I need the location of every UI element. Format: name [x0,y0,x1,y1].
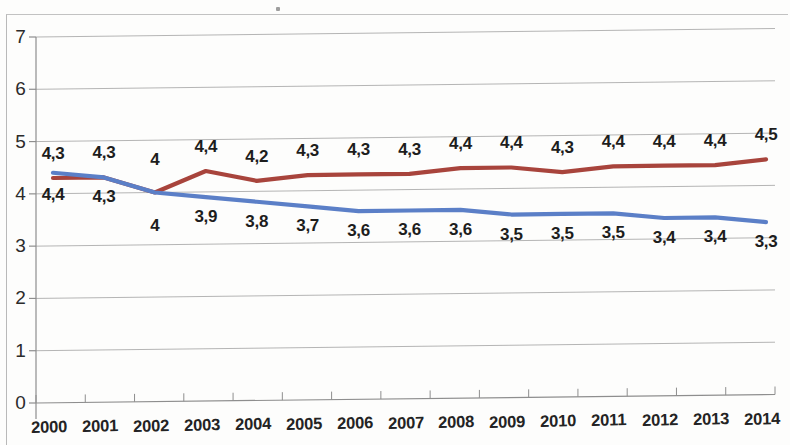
y-axis-label-4: 4 [0,183,26,205]
gridline-6 [36,81,775,89]
red-series-label-2005: 4,3 [296,141,319,161]
x-axis-label-2005: 2005 [286,414,322,434]
blue-series-label-2001: 4,3 [93,187,116,207]
blue-series-label-2013: 3,4 [704,227,727,247]
red-series-label-2010: 4,3 [551,138,574,158]
blue-series-label-2010: 3,5 [551,224,574,244]
blue-series-label-2012: 3,4 [653,228,676,248]
y-axis-label-5: 5 [0,131,26,153]
series-line-red-series [53,159,766,192]
blue-series-label-2002: 4 [150,216,159,236]
blue-series-label-2009: 3,5 [500,225,523,245]
series-lines-group [53,159,766,222]
gridline-7 [36,29,775,37]
red-series-label-2012: 4,4 [653,132,676,152]
blue-series-label-2008: 3,6 [449,220,472,240]
red-series-label-2013: 4,4 [704,131,727,151]
y-axis-label-0: 0 [0,392,26,414]
x-axis-label-2011: 2011 [591,411,626,431]
blue-series-label-2007: 3,6 [398,220,421,240]
chart-screenshot: 01234567 2000200120022003200420052006200… [0,0,790,445]
y-axis-label-6: 6 [0,78,26,100]
gridline-2 [36,290,775,298]
red-series-label-2014: 4,5 [755,125,778,145]
red-series-label-2006: 4,3 [347,140,370,160]
x-axis-label-2007: 2007 [388,413,424,433]
blue-series-label-2014: 3,3 [755,232,778,252]
x-axis-label-2013: 2013 [693,409,729,429]
y-axis-label-1: 1 [0,340,26,362]
blue-series-label-2006: 3,6 [347,221,370,241]
x-axis-label-2014: 2014 [744,409,780,429]
red-series-label-2007: 4,3 [398,140,421,160]
blue-series-label-2005: 3,7 [296,216,319,236]
red-series-label-2001: 4,3 [93,143,116,163]
gridline-1 [36,342,775,350]
x-axis-label-2009: 2009 [489,412,525,432]
series-line-blue-series [53,173,766,222]
blue-series-label-2004: 3,8 [245,212,268,232]
x-axis-label-2000: 2000 [31,417,67,437]
blue-series-label-2011: 3,5 [602,223,625,243]
blue-series-label-2000: 4,4 [42,185,65,205]
red-series-label-2009: 4,4 [500,133,523,153]
red-series-label-2004: 4,2 [245,147,268,167]
y-axis-label-2: 2 [0,287,26,309]
red-series-label-2008: 4,4 [449,134,472,154]
x-axis-label-2012: 2012 [642,410,678,430]
x-axis-label-2010: 2010 [540,411,576,431]
x-axis-label-2003: 2003 [184,415,220,435]
y-axis-label-7: 7 [0,26,26,48]
x-axis-label-2001: 2001 [82,416,118,436]
x-axis-label-2002: 2002 [133,416,169,436]
x-axis-label-2004: 2004 [235,415,271,435]
line-chart-plot [0,0,790,445]
red-series-label-2003: 4,4 [194,137,217,157]
x-axis-label-2008: 2008 [438,412,474,432]
red-series-label-2002: 4 [150,150,159,170]
blue-series-label-2003: 3,9 [194,207,217,227]
red-series-label-2000: 4,3 [42,144,65,164]
x-axis-label-2006: 2006 [337,413,373,433]
y-axis-label-3: 3 [0,235,26,257]
red-series-label-2011: 4,4 [602,132,625,152]
x-axis-line [36,395,775,403]
